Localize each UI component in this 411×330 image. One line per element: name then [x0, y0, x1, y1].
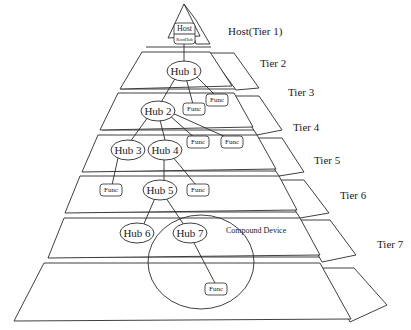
tier-label-5: Tier 5 [314, 154, 341, 166]
host-node: Host RootHub [174, 23, 195, 44]
usb-tier-pyramid-diagram: Compound Device Host RootHub Hub 1 Hub 2… [0, 0, 411, 330]
hub-label: Hub 3 [114, 144, 142, 156]
hub-label: Hub 5 [146, 184, 174, 196]
tier-label-2: Tier 2 [260, 57, 286, 69]
hub-label: Hub 1 [170, 65, 197, 77]
hub-node-3: Hub 3 [111, 140, 145, 160]
func-node: Func [206, 94, 228, 106]
tier-label-4: Tier 4 [293, 121, 320, 133]
tier-label-7: Tier 7 [377, 238, 404, 250]
root-hub-label: RootHub [176, 37, 193, 42]
func-label: Func [209, 285, 223, 293]
tier-label-1: Host(Tier 1) [228, 25, 283, 38]
func-label: Func [191, 138, 205, 146]
hub-node-2: Hub 2 [141, 101, 175, 121]
hub-node-1: Hub 1 [167, 61, 201, 81]
hub-label: Hub 4 [151, 144, 179, 156]
tier-label-3: Tier 3 [288, 86, 315, 98]
func-node: Func [183, 103, 205, 115]
hub-node-7: Hub 7 [173, 223, 207, 243]
func-label: Func [210, 96, 224, 104]
func-node: Func [100, 184, 122, 196]
compound-device-label: Compound Device [226, 226, 287, 235]
hub-label: Hub 6 [123, 227, 151, 239]
func-label: Func [225, 138, 239, 146]
tier-label-6: Tier 6 [340, 189, 367, 201]
hub-node-4: Hub 4 [148, 140, 182, 160]
func-label: Func [187, 105, 201, 113]
tier-7-slab [14, 257, 387, 322]
func-node: Func [221, 136, 243, 148]
hub-label: Hub 2 [144, 105, 171, 117]
func-label: Func [191, 186, 205, 194]
func-node: Func [187, 184, 209, 196]
func-node: Func [205, 283, 227, 295]
func-label: Func [104, 186, 118, 194]
hub-label: Hub 7 [176, 227, 204, 239]
host-label: Host [177, 24, 193, 33]
hub-node-5: Hub 5 [143, 180, 177, 200]
func-node: Func [187, 136, 209, 148]
hub-node-6: Hub 6 [120, 223, 154, 243]
